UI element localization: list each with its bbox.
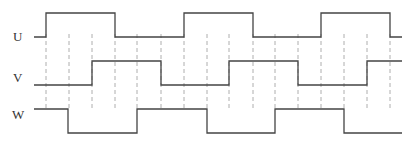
dashed-guide-lines	[46, 34, 390, 110]
label-v: V	[13, 70, 23, 85]
waveforms	[34, 13, 402, 133]
waveform-v	[34, 61, 402, 85]
waveform-u	[34, 13, 402, 37]
uvw-timing-diagram: U V W	[0, 0, 415, 144]
label-u: U	[13, 29, 23, 44]
label-w: W	[12, 107, 25, 122]
waveform-w	[34, 109, 402, 133]
signal-labels: U V W	[12, 29, 25, 122]
